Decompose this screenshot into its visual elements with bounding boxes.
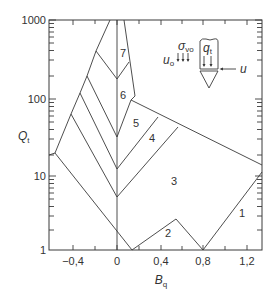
zone-labels: 1 2 3 4 5 6 7 bbox=[120, 47, 245, 239]
x-axis-title: Bq bbox=[155, 273, 167, 289]
y-axis-title: Qt bbox=[18, 129, 30, 145]
x-tick-label: 0,8 bbox=[195, 255, 210, 267]
y-ticks-right bbox=[255, 20, 262, 230]
soil-classification-chart: 1 2 3 4 5 6 7 1000 100 10 1 −0,4 0 0,4 0… bbox=[0, 0, 276, 300]
zone-label-3: 3 bbox=[171, 175, 177, 187]
outer-left-line-top bbox=[96, 20, 110, 51]
inset-label-qt: qt bbox=[203, 41, 213, 56]
zone-label-7: 7 bbox=[120, 47, 126, 59]
x-tick-label: 0,4 bbox=[153, 255, 168, 267]
zone-label-4: 4 bbox=[149, 132, 155, 144]
y-tick-label: 10 bbox=[34, 170, 46, 182]
y-tick-label: 100 bbox=[28, 93, 46, 105]
zone-label-1: 1 bbox=[239, 207, 245, 219]
y-ticks-left bbox=[49, 20, 56, 230]
inset-label-sigma: σvo bbox=[178, 39, 194, 54]
cone-tip bbox=[200, 71, 218, 88]
zone-7-right-boundary bbox=[124, 20, 135, 100]
x-tick-label: 0 bbox=[114, 255, 120, 267]
inset-label-u: u bbox=[240, 62, 247, 76]
zone-boundaries bbox=[49, 20, 262, 250]
zone-label-6: 6 bbox=[120, 89, 126, 101]
chevron-6 bbox=[87, 76, 131, 137]
x-tick-labels: −0,4 0 0,4 0,8 1,2 bbox=[62, 255, 255, 267]
y-tick-label: 1 bbox=[40, 244, 46, 256]
left-envelope bbox=[49, 51, 96, 155]
cone-inset: σvo qt uo u bbox=[163, 39, 247, 88]
x-tick-label: −0,4 bbox=[62, 255, 84, 267]
zone-label-2: 2 bbox=[165, 227, 171, 239]
left-lower-diagonal bbox=[55, 153, 132, 250]
chevron-4 bbox=[71, 114, 178, 197]
zone-label-5: 5 bbox=[133, 117, 139, 129]
y-tick-label: 1000 bbox=[22, 14, 46, 26]
zone-1-boundary bbox=[203, 172, 262, 250]
x-tick-label: 1,2 bbox=[239, 255, 254, 267]
plot-frame bbox=[49, 20, 262, 250]
inset-label-u0: uo bbox=[163, 53, 175, 68]
